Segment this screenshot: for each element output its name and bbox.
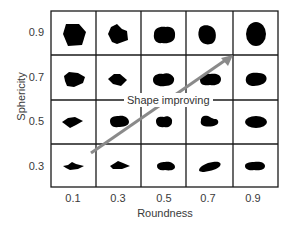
- grain-shape: [201, 116, 219, 127]
- grain-shape: [157, 162, 175, 171]
- grain-shape: [64, 72, 85, 87]
- shape-grid: [0, 0, 288, 225]
- grain-shape: [63, 162, 84, 170]
- grain-shape: [108, 74, 127, 86]
- grain-shape: [153, 73, 174, 86]
- grain-shape: [110, 161, 130, 169]
- grain-shape: [245, 162, 265, 171]
- grain-shape: [246, 73, 267, 86]
- shape-improving-label: Shape improving: [124, 93, 213, 107]
- grain-shape: [199, 162, 221, 172]
- grain-shape: [245, 116, 267, 128]
- grain-shape: [63, 24, 86, 46]
- grain-shape: [154, 27, 175, 43]
- grain-shape: [246, 22, 266, 46]
- grain-shape: [62, 117, 83, 128]
- grain-shape: [110, 116, 129, 127]
- grain-shape: [156, 116, 172, 127]
- grain-shape: [198, 25, 216, 44]
- grain-shape: [108, 24, 128, 44]
- roundness-sphericity-diagram: 0.9 0.7 0.5 0.3 Sphericity 0.1 0.3 0.5 0…: [0, 0, 288, 225]
